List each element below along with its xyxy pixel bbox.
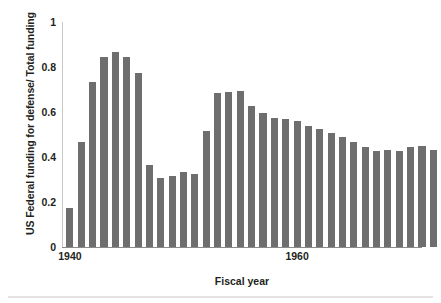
bar (214, 93, 221, 247)
y-tick-label: 1 (16, 17, 56, 28)
bar (316, 129, 323, 247)
x-tick-label: 1960 (267, 250, 327, 262)
bar (66, 208, 73, 247)
bar (282, 119, 289, 247)
bar (396, 151, 403, 247)
bar (225, 92, 232, 247)
bar (203, 131, 210, 247)
bar (259, 113, 266, 247)
bar (271, 118, 278, 247)
chart-figure: US Federal funding for defense/ Total fu… (0, 0, 441, 303)
bar (430, 150, 437, 247)
bar (146, 165, 153, 247)
bar (384, 150, 391, 247)
bar (89, 82, 96, 247)
y-tick-label: 0.4 (16, 152, 56, 163)
bar (362, 147, 369, 247)
y-tick-label: 0.8 (16, 62, 56, 73)
bar (294, 121, 301, 247)
y-axis-ticks: 00.20.40.60.81 (12, 22, 56, 247)
bar (373, 151, 380, 247)
y-tick-label: 0.2 (16, 197, 56, 208)
bar (237, 91, 244, 247)
plot-area (62, 22, 422, 247)
bar (350, 142, 357, 247)
bar (248, 106, 255, 247)
bar-series (62, 22, 422, 247)
x-axis-ticks: 1940196019802000 (62, 250, 422, 264)
page-divider (8, 296, 433, 298)
bar (339, 137, 346, 247)
x-axis-line (62, 247, 422, 248)
y-tick-label: 0.6 (16, 107, 56, 118)
bar (169, 176, 176, 247)
bar (112, 52, 119, 247)
x-axis-label: Fiscal year (62, 275, 422, 287)
bar (100, 57, 107, 247)
bar (305, 126, 312, 248)
bar (191, 174, 198, 247)
bar (135, 73, 142, 247)
bar (418, 146, 425, 247)
bar (78, 142, 85, 247)
bar (407, 147, 414, 247)
bar (328, 133, 335, 247)
bar (157, 178, 164, 247)
x-tick-label: 1940 (40, 250, 100, 262)
bar (123, 57, 130, 247)
bar (180, 172, 187, 247)
